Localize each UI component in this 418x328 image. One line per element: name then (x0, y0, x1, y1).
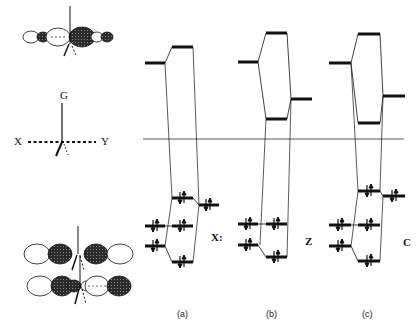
energy-diagram-a (145, 47, 219, 268)
caption-b: (b) (266, 309, 277, 319)
coordinate-axes: G X Y (14, 89, 109, 156)
caption-c: (c) (362, 309, 373, 319)
axis-label-x: X (14, 135, 22, 147)
state-label-c: C (403, 236, 411, 248)
axis-label-y: Y (101, 135, 109, 147)
state-label-b: Z (305, 235, 312, 247)
axis-label-g: G (60, 89, 68, 101)
energy-diagram-b (238, 33, 312, 263)
orbital-diagram-top (23, 6, 113, 56)
state-label-a: X: (211, 231, 223, 243)
energy-diagram-c (329, 34, 405, 267)
caption-a: (a) (177, 309, 188, 319)
orbital-diagram-bottom-1 (24, 226, 133, 270)
mo-diagram: G X Y (0, 0, 418, 328)
